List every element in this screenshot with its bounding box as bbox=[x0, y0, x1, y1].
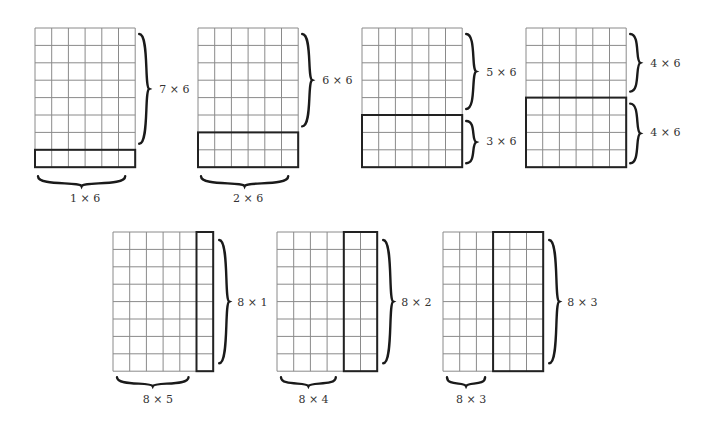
label-lower: 3 × 6 bbox=[486, 135, 516, 148]
brace-bottom bbox=[447, 377, 485, 386]
label-bottom: 8 × 4 bbox=[298, 393, 328, 406]
label-upper: 5 × 6 bbox=[486, 66, 516, 79]
brace-bottom bbox=[281, 377, 336, 386]
brace-upper bbox=[139, 34, 149, 144]
grid-g2 bbox=[198, 28, 298, 167]
label-right: 8 × 2 bbox=[401, 296, 431, 309]
brace-upper bbox=[302, 34, 312, 126]
brace-right bbox=[383, 240, 393, 363]
brace-upper bbox=[630, 34, 640, 92]
label-upper: 6 × 6 bbox=[322, 74, 352, 87]
grid-g1 bbox=[35, 28, 135, 167]
label-lower: 2 × 6 bbox=[233, 192, 263, 205]
label-lower: 1 × 6 bbox=[70, 192, 100, 205]
brace-lower bbox=[466, 121, 476, 163]
label-right: 8 × 1 bbox=[237, 296, 267, 309]
grid-g6 bbox=[277, 232, 377, 371]
label-lower: 4 × 6 bbox=[650, 126, 680, 139]
label-upper: 7 × 6 bbox=[159, 83, 189, 96]
brace-lower bbox=[38, 176, 125, 186]
brace-right bbox=[219, 240, 229, 363]
grid-g4 bbox=[526, 28, 626, 167]
brace-lower bbox=[201, 176, 288, 186]
label-upper: 4 × 6 bbox=[650, 57, 680, 70]
label-bottom: 8 × 3 bbox=[456, 393, 486, 406]
figure-svg: 7 × 61 × 66 × 62 × 65 × 63 × 64 × 64 × 6… bbox=[0, 0, 710, 437]
brace-lower bbox=[630, 104, 640, 164]
brace-right bbox=[549, 240, 559, 363]
grid-g7 bbox=[443, 232, 543, 371]
label-bottom: 8 × 5 bbox=[143, 393, 173, 406]
grid-g3 bbox=[362, 28, 462, 167]
grid-g5 bbox=[113, 232, 213, 371]
brace-bottom bbox=[117, 377, 189, 386]
label-right: 8 × 3 bbox=[567, 296, 597, 309]
brace-upper bbox=[466, 34, 476, 109]
